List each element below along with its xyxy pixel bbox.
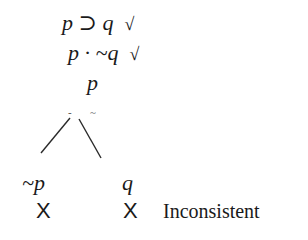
- branch-right-formula: q: [122, 170, 133, 196]
- closed-branch-x-icon: X: [123, 198, 138, 224]
- left-branch-line: [41, 118, 70, 153]
- verdict-label: Inconsistent: [163, 200, 260, 223]
- branch-left-formula: ~p: [22, 170, 45, 196]
- right-branch-line: [79, 119, 101, 158]
- branch-tick-right: ~: [90, 106, 96, 118]
- closed-branch-x-icon: X: [36, 198, 51, 224]
- branch-tick-left: -: [68, 106, 72, 118]
